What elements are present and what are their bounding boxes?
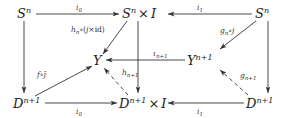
label-bot-i1: i1: [197, 107, 203, 117]
node-d-left: Dn+1: [12, 96, 40, 111]
label-g-n: gn∘j: [220, 26, 235, 36]
label-f-jbar: f∘j̄: [36, 70, 47, 79]
label-h-n1: hn+1: [122, 68, 139, 78]
label-h-n: hn∘(j×id): [71, 25, 105, 35]
commutative-diagram: Sn Sn×I Sn Y Yn+1 Dn+1 Dn+1×I Dn+1 i0 i1…: [0, 0, 288, 118]
node-y-n1: Yn+1: [187, 53, 213, 68]
label-top-i0: i0: [76, 3, 82, 13]
node-d-right: Dn+1: [245, 96, 273, 111]
node-y: Y: [93, 53, 103, 68]
label-g-n1: gn+1: [240, 71, 256, 81]
label-iota-n1: ιn+1: [153, 49, 168, 59]
label-bot-i0: i0: [76, 107, 82, 117]
node-s-right: Sn: [255, 6, 269, 21]
label-top-i1: i1: [197, 3, 203, 13]
node-s-times-i: Sn×I: [122, 6, 157, 21]
arrow-h-n: [103, 21, 127, 54]
node-s-left: Sn: [17, 6, 31, 21]
node-d-times-i: Dn+1×I: [118, 96, 167, 111]
